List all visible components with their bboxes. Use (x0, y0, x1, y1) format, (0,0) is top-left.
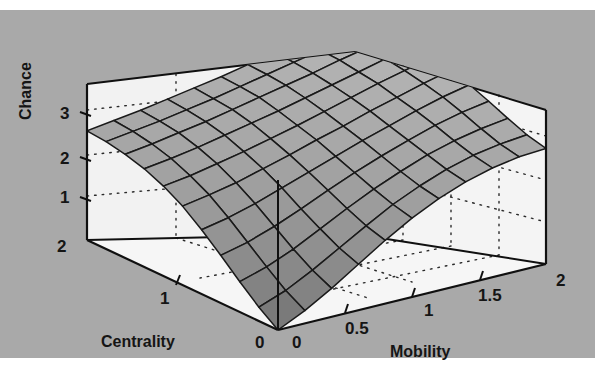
z-tick-label-3: 3 (60, 105, 69, 122)
x-tick-label-0-5: 0.5 (345, 320, 369, 337)
surface-cell (301, 28, 347, 50)
surface-cell (328, 18, 374, 38)
x-tick-label-1: 1 (424, 302, 433, 319)
surface-cell (347, 27, 393, 48)
surface-mesh (87, 18, 546, 330)
surface-plot-figure: Chance Centrality Mobility 3 2 1 2 1 0 0… (0, 0, 595, 380)
surface-cell (366, 37, 412, 59)
y-axis-title: Centrality (101, 334, 175, 350)
y-tick-label-1: 1 (160, 290, 169, 307)
x-axis-title: Mobility (390, 344, 450, 360)
y-tick-label-0: 0 (255, 334, 264, 351)
z-tick-label-1: 1 (60, 189, 69, 206)
plot-canvas (0, 0, 595, 380)
x-tick-label-2: 2 (556, 272, 565, 289)
z-tick-label-2: 2 (60, 150, 69, 167)
y-tick-label-2: 2 (57, 238, 66, 255)
x-tick-label-1-5: 1.5 (478, 287, 502, 304)
z-axis-title: Chance (18, 62, 34, 120)
x-tick-label-0: 0 (292, 334, 301, 351)
